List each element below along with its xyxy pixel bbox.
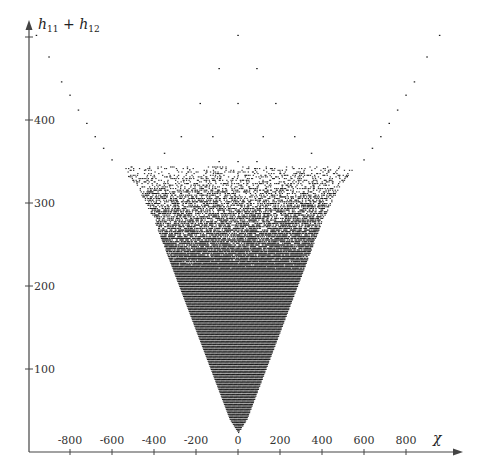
data-point [190,238,191,239]
data-point [164,176,165,177]
data-point [264,201,265,202]
data-point [250,201,251,202]
data-point [251,188,252,189]
data-point [197,230,198,231]
data-point [265,230,266,231]
data-point [248,213,249,214]
data-point [186,213,187,214]
data-point [278,205,279,206]
data-point [232,245,233,246]
data-point [263,235,264,236]
data-point [185,208,186,209]
data-point [249,411,250,412]
data-point [312,205,313,206]
data-point [264,256,265,257]
data-point [222,180,223,181]
data-point [208,231,209,232]
data-point [288,216,289,217]
data-point [304,170,305,171]
data-point [209,218,210,219]
data-point [295,186,296,187]
data-point [222,225,223,226]
data-point [225,196,226,197]
data-point [293,241,294,242]
y-axis-arrow-icon [26,20,33,30]
data-point [214,243,215,244]
data-point [305,188,306,189]
data-point [229,228,230,229]
data-point [209,210,210,211]
data-point [183,261,184,262]
data-point [220,198,221,199]
data-point [322,206,323,207]
data-point [226,233,227,234]
data-point [251,203,252,204]
data-point [207,243,208,244]
data-point [225,251,226,252]
data-point [196,236,197,237]
data-point [262,196,263,197]
data-point [197,183,198,184]
data-point [204,191,205,192]
data-point [265,266,266,267]
data-point [257,223,258,224]
data-point [291,261,292,262]
data-point [183,225,184,226]
data-point [188,228,189,229]
data-point [278,208,279,209]
data-point [287,200,288,201]
data-point [148,195,149,196]
data-point [220,226,221,227]
data-point [164,220,165,221]
data-point [291,303,292,304]
data-point [148,201,149,202]
data-point [236,241,237,242]
data-point [222,216,223,217]
data-point [218,243,219,244]
data-point [273,200,274,201]
data-point [302,200,303,201]
data-point [244,231,245,232]
data-point [268,362,269,363]
data-point [250,208,251,209]
data-point [179,245,180,246]
data-point [302,181,303,182]
data-point [336,186,337,187]
data-point [312,178,313,179]
data-point [204,223,205,224]
data-point [300,213,301,214]
data-point [61,81,63,82]
data-point [152,188,153,189]
data-point [232,241,233,242]
data-point [272,352,273,353]
data-point [236,183,237,184]
data-point [240,180,241,181]
data-point [182,196,183,197]
data-point [162,186,163,187]
data-point [241,220,242,221]
data-point [212,167,213,168]
data-point [176,245,177,246]
data-point [266,251,267,252]
data-point [204,235,205,236]
data-point [154,211,155,212]
data-point [270,255,271,256]
data-point [296,221,297,222]
data-point [269,241,270,242]
data-point [277,195,278,196]
data-point [133,175,134,176]
data-point [235,245,236,246]
data-point [197,210,198,211]
data-point [152,180,153,181]
data-point [172,258,173,259]
data-point [193,168,194,169]
data-point [266,188,267,189]
data-point [154,172,155,173]
data-point [248,175,249,176]
data-point [240,246,241,247]
data-point [182,220,183,221]
data-point [186,246,187,247]
data-point [167,208,168,209]
data-point [211,208,212,209]
data-point [254,243,255,244]
